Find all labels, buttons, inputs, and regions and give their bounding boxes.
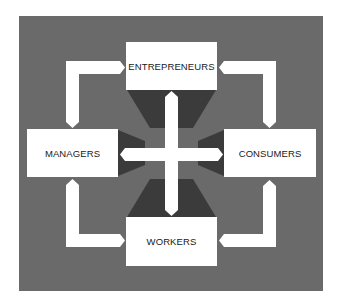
arrow-horizontal-center xyxy=(120,148,223,161)
arrow-elbow-bottom-left xyxy=(66,179,125,247)
node-managers: MANAGERS xyxy=(27,129,118,177)
arrow-elbow-top-right xyxy=(219,61,276,128)
diagram-canvas: ENTREPRENEURS MANAGERS CONSUMERS WORKERS xyxy=(0,0,338,305)
arrow-elbow-bottom-right xyxy=(219,180,276,247)
node-entrepreneurs: ENTREPRENEURS xyxy=(126,42,217,90)
arrow-elbow-top-left xyxy=(66,61,125,128)
node-label: WORKERS xyxy=(147,236,197,247)
node-label: MANAGERS xyxy=(45,148,100,159)
node-label: ENTREPRENEURS xyxy=(128,61,214,72)
node-consumers: CONSUMERS xyxy=(224,129,316,177)
node-workers: WORKERS xyxy=(126,217,217,266)
node-label: CONSUMERS xyxy=(239,148,302,159)
